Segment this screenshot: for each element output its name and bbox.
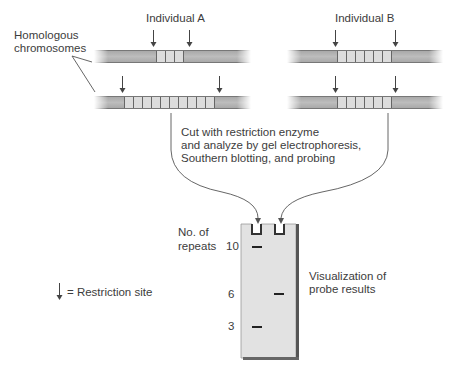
scale-mark-10: 10 — [226, 240, 239, 253]
restriction-site-arrow-icon — [215, 76, 224, 94]
chromosome-b2 — [287, 96, 443, 109]
legend-label: = Restriction site — [67, 286, 152, 299]
visualization-label-line2: probe results — [309, 283, 375, 296]
repeat-block-a2 — [124, 97, 215, 108]
restriction-site-arrow-icon — [149, 30, 158, 48]
process-text-line2: and analyze by gel electrophoresis, — [181, 139, 361, 152]
gel — [238, 220, 304, 362]
restriction-site-arrow-icon — [391, 30, 400, 48]
chromosome-a1 — [94, 50, 251, 63]
repeat-block-b2 — [337, 97, 392, 108]
gel-band-a-3 — [252, 326, 262, 328]
repeat-block-a1 — [156, 51, 184, 62]
process-text-line3: Southern blotting, and probing — [181, 152, 335, 165]
restriction-site-arrow-icon — [391, 76, 400, 94]
restriction-site-arrow-icon — [331, 30, 340, 48]
chromosome-b1 — [287, 50, 443, 63]
restriction-site-arrow-icon — [331, 76, 340, 94]
repeats-label-line1: No. of — [178, 226, 209, 239]
visualization-label-line1: Visualization of — [309, 270, 386, 283]
chromosome-a2 — [94, 96, 251, 109]
restriction-site-legend-icon — [55, 283, 64, 301]
restriction-site-arrow-icon — [185, 30, 194, 48]
scale-mark-6: 6 — [228, 288, 234, 301]
process-text-line1: Cut with restriction enzyme — [181, 126, 319, 139]
restriction-site-arrow-icon — [118, 76, 127, 94]
gel-band-b-6 — [274, 293, 284, 295]
gel-band-a-10 — [252, 246, 262, 248]
repeat-block-b1 — [337, 51, 392, 62]
repeats-label-line2: repeats — [178, 240, 216, 253]
scale-mark-3: 3 — [228, 320, 234, 333]
